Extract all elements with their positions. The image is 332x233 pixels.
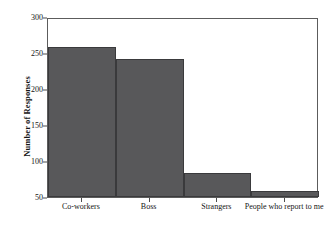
y-axis-tick-label: 50 (21, 194, 43, 202)
bar (116, 59, 184, 197)
plot-area (47, 18, 318, 198)
bar-chart: Number of Responses 50100150200250300 Co… (0, 0, 332, 233)
y-axis-tick-label: 200 (21, 86, 43, 94)
y-axis-tick-label: 250 (21, 50, 43, 58)
y-axis-tick-labels: 50100150200250300 (18, 0, 43, 233)
bar (184, 173, 252, 197)
y-axis-tick-label: 150 (21, 122, 43, 130)
y-axis-tick-label: 100 (21, 158, 43, 166)
bar (251, 191, 319, 197)
y-axis-tick-label: 300 (21, 14, 43, 22)
bar (48, 47, 116, 197)
x-axis-tick-label: Boss (141, 203, 157, 212)
x-axis-tick-label: Strangers (201, 203, 231, 212)
bars-layer (48, 19, 317, 197)
x-axis-tick-label: People who report to me (245, 203, 324, 212)
x-axis-tick-label: Co-workers (62, 203, 100, 212)
